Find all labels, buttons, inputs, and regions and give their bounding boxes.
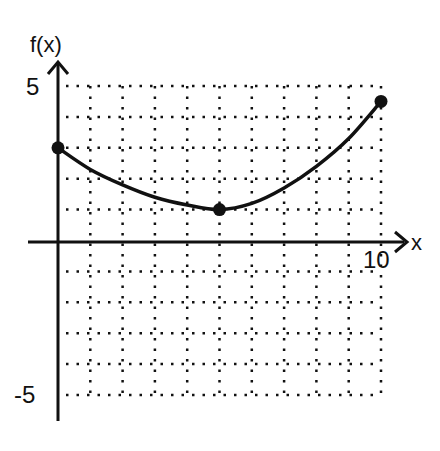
y-axis-label: f(x) xyxy=(30,32,62,57)
marked-points xyxy=(52,95,388,216)
y-tick-label-min: -5 xyxy=(14,381,35,408)
x-axis-label: x xyxy=(411,230,422,255)
x-tick-label-max: 10 xyxy=(363,246,390,273)
data-point-marker xyxy=(375,95,388,108)
data-point-marker xyxy=(52,141,65,154)
data-point-marker xyxy=(213,203,226,216)
function-graph: f(x) x 5 -5 10 xyxy=(0,0,440,451)
y-tick-label-max: 5 xyxy=(26,73,39,100)
